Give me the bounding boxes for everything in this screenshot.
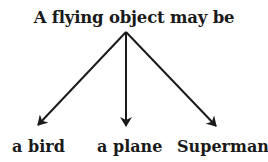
arrow-to-bird — [38, 32, 126, 125]
leaf-label-plane: a plane — [97, 137, 162, 156]
leaf-label-superman: Superman — [177, 137, 268, 156]
arrow-to-superman — [126, 32, 216, 126]
leaf-label-bird: a bird — [12, 137, 65, 156]
